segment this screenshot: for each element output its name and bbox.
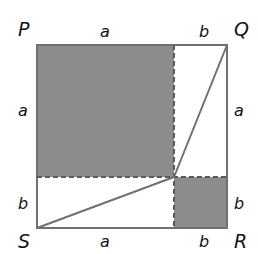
- vertex-q-label: Q: [234, 18, 249, 40]
- top-label-b: b: [199, 22, 209, 41]
- bottom-label-b: b: [199, 232, 209, 251]
- top-label-a: a: [100, 22, 110, 41]
- shaded-square-a: [37, 45, 174, 177]
- vertex-s-label: S: [18, 230, 30, 252]
- vertex-p-label: P: [18, 18, 30, 40]
- segment-s-to-point: [37, 177, 174, 228]
- bottom-label-a: a: [100, 232, 110, 251]
- right-label-b: b: [234, 194, 244, 213]
- shaded-square-b: [174, 177, 227, 228]
- segment-q-to-point: [174, 45, 227, 177]
- vertex-r-label: R: [234, 230, 247, 252]
- pqrs-diagram: P Q S R a b a b a b a b: [0, 0, 258, 254]
- left-label-a: a: [18, 101, 28, 120]
- left-label-b: b: [18, 194, 28, 213]
- right-label-a: a: [234, 101, 244, 120]
